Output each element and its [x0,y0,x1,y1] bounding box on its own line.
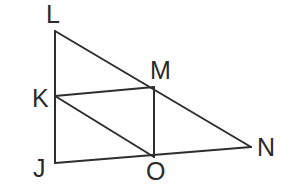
vertex-label-J: J [33,156,46,181]
vertex-label-O: O [146,159,165,184]
vertex-label-K: K [32,86,49,111]
vertex-label-N: N [257,135,275,160]
vertex-label-L: L [46,2,60,27]
segment-KM [55,87,154,96]
vertex-label-M: M [150,58,171,83]
segment-KO [55,96,154,157]
geometry-diagram: L M K J O N [0,0,289,194]
